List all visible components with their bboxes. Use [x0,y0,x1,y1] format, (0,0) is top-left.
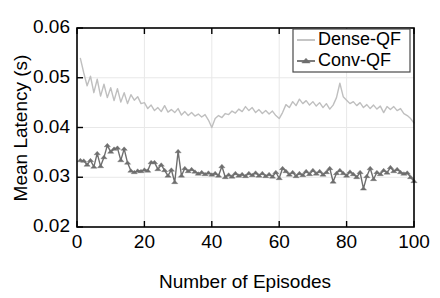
x-tick-label: 0 [72,231,83,252]
x-tick-label: 60 [269,231,290,252]
chart-legend[interactable]: Dense-QFConv-QF [293,29,410,72]
mean-latency-line-chart: Mean Latency (s) Number of Episodes 0.02… [0,0,440,298]
y-tick-label: 0.06 [33,16,70,37]
chart-figure: Mean Latency (s) Number of Episodes 0.02… [0,0,440,298]
x-tick-label: 100 [398,231,430,252]
x-tick-label: 40 [201,231,222,252]
x-axis-label: Number of Episodes [159,271,331,292]
legend-label-conv-qf[interactable]: Conv-QF [318,50,391,70]
y-tick-label: 0.02 [33,215,70,236]
x-tick-label: 80 [336,231,357,252]
legend-label-dense-qf[interactable]: Dense-QF [318,29,401,49]
y-tick-label: 0.05 [33,66,70,87]
y-tick-label: 0.03 [33,165,70,186]
y-axis-label: Mean Latency (s) [10,55,31,202]
x-tick-label: 20 [134,231,155,252]
y-tick-label: 0.04 [33,116,70,137]
